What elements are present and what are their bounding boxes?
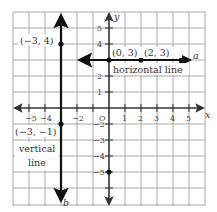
y-tick-label: 5 xyxy=(97,24,102,33)
y-tick-label: −5 xyxy=(93,168,105,177)
x-tick-label: 1 xyxy=(122,114,127,123)
vertical-line-caption-1: vertical xyxy=(18,143,55,154)
point-0-3 xyxy=(106,57,111,62)
x-axis-label: x xyxy=(205,109,211,120)
point-label-0-3: (0, 3) xyxy=(112,47,138,58)
point-neg3-4 xyxy=(58,41,63,46)
x-tick-label: 4 xyxy=(170,114,175,123)
point-label-2-3: (2, 3) xyxy=(144,47,170,58)
y-tick-label: −4 xyxy=(93,152,105,161)
horizontal-line-caption: horizontal line xyxy=(113,64,183,75)
y-tick-label: 2 xyxy=(97,72,102,81)
point-label-neg3-4: (−3, 4) xyxy=(20,35,54,46)
origin-label: O xyxy=(99,114,106,123)
x-tick-label: −4 xyxy=(40,114,52,123)
point-label-neg3-neg1: (−3, −1) xyxy=(15,126,56,137)
coordinate-plane: −5 −4 −2 1 2 3 4 5 5 4 2 1 −2 −3 −4 −5 O… xyxy=(0,0,217,212)
x-tick-label: −5 xyxy=(25,114,37,123)
y-tick-label: 1 xyxy=(97,88,102,97)
point-neg3-neg1 xyxy=(58,121,63,126)
y-tick-label: 4 xyxy=(97,40,102,49)
x-tick-label: −2 xyxy=(72,114,84,123)
point-0-neg4 xyxy=(106,169,111,174)
y-axis-label: y xyxy=(113,11,120,22)
vertical-line-caption-2: line xyxy=(28,157,46,168)
x-tick-label: 2 xyxy=(138,114,143,123)
y-tick-label: −3 xyxy=(93,136,105,145)
line-a-label: a xyxy=(193,50,199,61)
x-tick-label: 5 xyxy=(186,114,191,123)
point-2-3 xyxy=(138,57,143,62)
line-b-label: b xyxy=(63,197,69,208)
x-tick-label: 3 xyxy=(154,114,159,123)
